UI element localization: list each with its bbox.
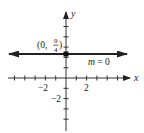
coordinate-plane: y x (0, 9 4 ) m = 0 −2 2 −2	[0, 0, 144, 133]
y-axis	[64, 12, 69, 131]
x-tick-label-pos2: 2	[84, 83, 89, 93]
point-label-suffix: )	[59, 40, 62, 51]
point-label-numerator: 9	[54, 37, 58, 45]
point-label-denominator: 4	[54, 46, 58, 54]
y-axis-label: y	[70, 8, 76, 19]
x-axis	[8, 76, 130, 81]
slope-label: m = 0	[88, 57, 110, 67]
x-axis-label: x	[133, 72, 139, 83]
y-intercept-point	[64, 52, 69, 57]
point-label-prefix: (0,	[37, 40, 47, 51]
y-tick-label-neg2: −2	[51, 94, 61, 104]
x-tick-label-neg2: −2	[38, 83, 48, 93]
